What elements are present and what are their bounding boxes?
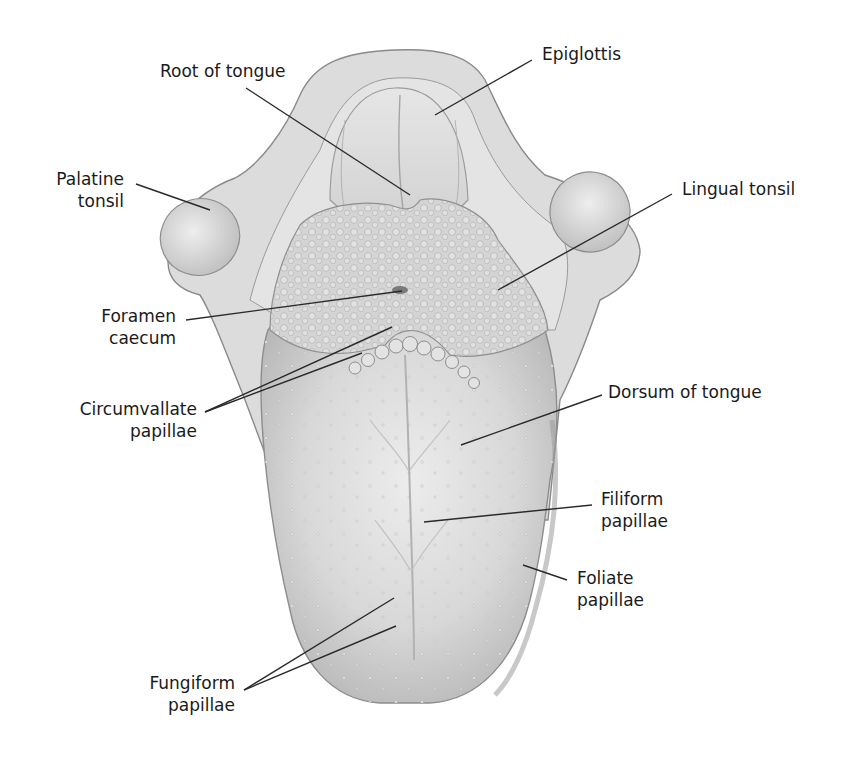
label-lingual-tonsil: Lingual tonsil bbox=[682, 178, 795, 200]
label-root-of-tongue: Root of tongue bbox=[160, 60, 286, 82]
label-epiglottis: Epiglottis bbox=[542, 43, 621, 65]
label-foliate-papillae: Foliate papillae bbox=[577, 567, 644, 611]
label-filiform-papillae: Filiform papillae bbox=[601, 488, 668, 532]
tongue-illustration bbox=[0, 0, 843, 759]
leader-palatine-tonsil bbox=[136, 184, 210, 210]
label-palatine-tonsil: Palatine tonsil bbox=[40, 168, 124, 212]
label-fungiform-papillae: Fungiform papillae bbox=[100, 672, 235, 716]
label-foramen-caecum: Foramen caecum bbox=[78, 305, 176, 349]
label-circumvallate-papillae: Circumvallate papillae bbox=[40, 398, 197, 442]
tongue-anatomy-figure: Root of tongue Epiglottis Palatine tonsi… bbox=[0, 0, 843, 759]
foramen-caecum-pit bbox=[392, 286, 408, 294]
label-dorsum-of-tongue: Dorsum of tongue bbox=[608, 381, 762, 403]
